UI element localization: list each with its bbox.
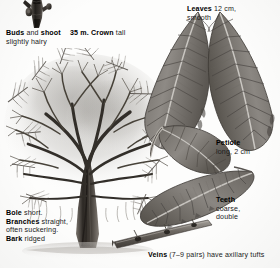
label-term: Crown bbox=[91, 29, 114, 37]
label-text: smooth bbox=[187, 14, 211, 22]
bole-branches-bark-label: Bole short.Branches straight,often sucke… bbox=[6, 209, 68, 243]
label-line: Branches straight, bbox=[6, 218, 68, 227]
field-guide-plate: Buds and shootslightly hairy 35 m. Crown… bbox=[0, 0, 280, 268]
label-term: Veins bbox=[148, 251, 167, 259]
label-term: Leaves bbox=[187, 5, 212, 13]
label-text: slightly hairy bbox=[6, 38, 47, 46]
label-line: smooth bbox=[187, 14, 236, 23]
label-term: Teeth bbox=[216, 196, 235, 204]
label-line: double bbox=[216, 213, 240, 222]
label-term: Buds bbox=[6, 29, 24, 37]
bud-and-shoot-figure bbox=[16, 0, 64, 30]
label-text: often suckering. bbox=[6, 226, 58, 234]
label-text: (7–9 pairs) have axillary tufts bbox=[167, 251, 264, 259]
label-text: ridged bbox=[22, 235, 45, 243]
label-text: coarse, bbox=[216, 205, 240, 213]
label-line: Petiole bbox=[216, 139, 250, 148]
label-line: long, 2 cm bbox=[216, 148, 250, 157]
label-term: Petiole bbox=[216, 139, 240, 147]
label-text: long, 2 cm bbox=[216, 148, 250, 156]
label-text: 12 cm, bbox=[212, 5, 236, 13]
label-line: coarse, bbox=[216, 205, 240, 214]
label-line: Veins (7–9 pairs) have axillary tufts bbox=[148, 251, 264, 260]
label-line: Buds and shoot bbox=[6, 29, 61, 38]
label-line: 35 m. Crown tall bbox=[70, 29, 126, 38]
label-line: often suckering. bbox=[6, 226, 68, 235]
label-text: and bbox=[24, 29, 41, 37]
label-text: straight, bbox=[39, 218, 68, 226]
label-term: shoot bbox=[41, 29, 61, 37]
petiole-label: Petiolelong, 2 cm bbox=[216, 139, 250, 156]
leaves-label: Leaves 12 cm,smooth bbox=[187, 5, 236, 22]
label-line: Teeth bbox=[216, 196, 240, 205]
buds-and-shoot-label: Buds and shootslightly hairy bbox=[6, 29, 61, 46]
label-term: Bole bbox=[6, 209, 22, 217]
label-line: Bark ridged bbox=[6, 235, 68, 244]
label-text: short. bbox=[22, 209, 43, 217]
label-term: Bark bbox=[6, 235, 22, 243]
teeth-label: Teethcoarse,double bbox=[216, 196, 240, 222]
label-term: 35 m. bbox=[70, 29, 91, 37]
crown-height-label: 35 m. Crown tall bbox=[70, 29, 126, 38]
label-text: double bbox=[216, 213, 238, 221]
label-term: Branches bbox=[6, 218, 39, 226]
leafy-twig-figure bbox=[112, 216, 224, 252]
label-text: tall bbox=[114, 29, 126, 37]
label-line: Leaves 12 cm, bbox=[187, 5, 236, 14]
veins-label: Veins (7–9 pairs) have axillary tufts bbox=[148, 251, 264, 260]
label-line: Bole short. bbox=[6, 209, 68, 218]
label-line: slightly hairy bbox=[6, 38, 61, 47]
